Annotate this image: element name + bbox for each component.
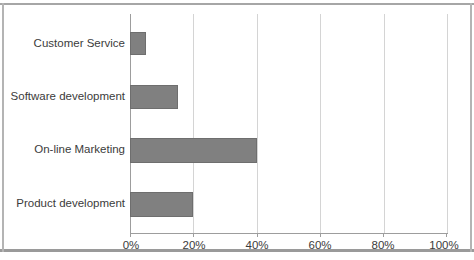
tick-mark-100 xyxy=(446,233,447,237)
gridline-60 xyxy=(320,14,321,233)
gridline-80 xyxy=(384,14,385,233)
category-axis-labels: Customer Service Software development On… xyxy=(0,0,125,260)
xtick-label-100: 100% xyxy=(429,238,458,252)
xtick-label-40: 40% xyxy=(245,238,268,252)
tick-mark-60 xyxy=(320,233,321,237)
bar-chart: Customer Service Software development On… xyxy=(0,0,474,260)
tick-mark-80 xyxy=(383,233,384,237)
tick-mark-40 xyxy=(257,233,258,237)
chart-screenshot: Customer Service Software development On… xyxy=(0,0,474,260)
tick-mark-0 xyxy=(130,233,131,237)
bar-customer-service[interactable] xyxy=(130,32,146,55)
value-axis-baseline xyxy=(130,233,448,234)
xtick-label-60: 60% xyxy=(308,238,331,252)
category-label-1: Software development xyxy=(3,90,125,103)
plot-area xyxy=(130,14,447,233)
tick-mark-20 xyxy=(193,233,194,237)
gridline-40 xyxy=(257,14,258,233)
bar-product-development[interactable] xyxy=(130,192,193,217)
gridline-100 xyxy=(447,14,448,233)
bar-software-development[interactable] xyxy=(130,85,178,109)
category-label-3: Product development xyxy=(3,197,125,210)
xtick-label-80: 80% xyxy=(371,238,394,252)
xtick-label-20: 20% xyxy=(182,238,205,252)
bar-on-line-marketing[interactable] xyxy=(130,138,257,163)
gridline-20 xyxy=(193,14,194,233)
xtick-label-0: 0% xyxy=(123,238,140,252)
category-label-2: On-line Marketing xyxy=(3,143,125,156)
category-label-0: Customer Service xyxy=(3,37,125,50)
